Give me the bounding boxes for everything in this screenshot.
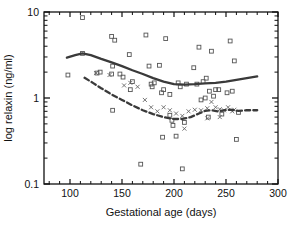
y-tick-label: 1 (33, 92, 39, 104)
x-tick-label: 150 (113, 187, 131, 199)
x-axis-tick-labels: 100150200250300 (61, 187, 287, 199)
plot-frame (44, 12, 278, 184)
x-tick-label: 200 (165, 187, 183, 199)
y-tick-label: 0.1 (24, 178, 39, 190)
x-tick-label: 100 (61, 187, 79, 199)
y-axis-tick-labels: 0.1110 (24, 6, 39, 190)
y-tick-label: 10 (27, 6, 39, 18)
x-tick-label: 300 (269, 187, 287, 199)
relaxin-scatter-figure: 100150200250300 0.1110 Gestational age (… (0, 0, 291, 232)
x-axis-title: Gestational age (days) (106, 206, 217, 218)
y-axis-title: log relaxin (ng/ml) (2, 54, 14, 141)
chart-canvas: 100150200250300 0.1110 Gestational age (… (0, 0, 291, 232)
x-tick-label: 250 (217, 187, 235, 199)
